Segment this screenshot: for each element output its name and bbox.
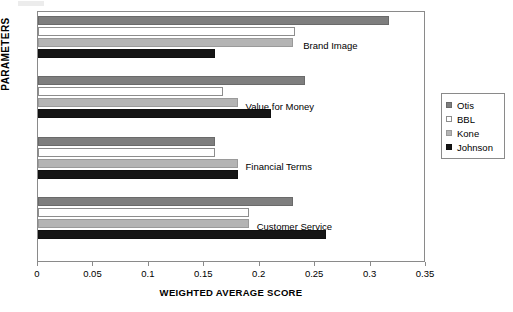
legend-swatch-icon [446,144,452,150]
x-tick-mark [203,262,204,266]
bar-johnson-0 [38,49,215,58]
category-label: Financial Terms [246,161,312,172]
category-label: Customer Service [257,221,333,232]
y-axis-title: PARAMETERS [0,0,14,114]
x-tick-label: 0.1 [128,268,168,279]
category-label: Brand Image [303,40,357,51]
legend-label: Otis [457,100,474,111]
bar-otis-3 [38,197,293,206]
bar-otis-2 [38,137,215,146]
x-tick-mark [37,262,38,266]
x-tick-label: 0 [17,268,57,279]
plot-area: Brand ImageValue for MoneyFinancial Term… [37,11,425,262]
bar-bbl-2 [38,148,215,157]
x-tick-mark [148,262,149,266]
legend-item-otis: Otis [446,98,501,112]
chart-legend: OtisBBLKoneJohnson [441,93,505,159]
legend-item-bbl: BBL [446,112,501,126]
bar-johnson-1 [38,109,271,118]
legend-label: Kone [457,128,479,139]
x-tick-mark [314,262,315,266]
legend-item-kone: Kone [446,126,501,140]
x-tick-label: 0.15 [183,268,223,279]
x-tick-label: 0.05 [72,268,112,279]
legend-swatch-icon [446,116,452,122]
x-tick-mark [259,262,260,266]
bar-kone-3 [38,219,249,228]
x-tick-mark [92,262,93,266]
bar-kone-2 [38,159,238,168]
x-tick-label: 0.35 [405,268,445,279]
x-tick-label: 0.2 [239,268,279,279]
x-tick-label: 0.3 [350,268,390,279]
legend-label: BBL [457,114,475,125]
bar-johnson-2 [38,170,238,179]
bar-bbl-3 [38,208,249,217]
bar-bbl-1 [38,87,223,96]
bar-chart: PARAMETERS Brand ImageValue for MoneyFin… [0,0,513,312]
legend-swatch-icon [446,130,452,136]
x-tick-mark [425,262,426,266]
bar-kone-0 [38,38,293,47]
legend-label: Johnson [457,142,493,153]
bars-layer: Brand ImageValue for MoneyFinancial Term… [38,12,424,261]
bar-otis-0 [38,16,389,25]
category-label: Value for Money [246,101,314,112]
legend-item-johnson: Johnson [446,140,501,154]
legend-swatch-icon [446,102,452,108]
x-tick-mark [370,262,371,266]
x-axis-title: WEIGHTED AVERAGE SCORE [37,287,425,298]
bar-bbl-0 [38,27,295,36]
bar-otis-1 [38,76,305,85]
bar-kone-1 [38,98,238,107]
x-tick-label: 0.25 [294,268,334,279]
scan-artifact [18,1,44,6]
